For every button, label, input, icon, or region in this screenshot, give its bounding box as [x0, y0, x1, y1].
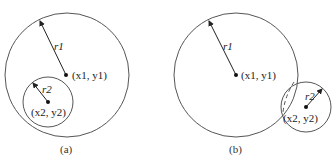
center-dot-1: [64, 73, 68, 77]
center1-label: (x1, y1): [72, 69, 107, 82]
caption-b: (b): [229, 143, 242, 156]
r2-label: r2: [305, 90, 315, 102]
center-dot-2: [304, 105, 308, 109]
r1-label: r1: [223, 40, 233, 52]
center2-label: (x2, y2): [283, 112, 318, 125]
center-dot-1: [234, 73, 238, 77]
caption-a: (a): [60, 143, 73, 156]
r1-label: r1: [54, 40, 64, 52]
center2-label: (x2, y2): [31, 106, 66, 119]
r2-label: r2: [42, 83, 52, 95]
circles-diagram: r1 (x1, y1) r2 (x2, y2) (a) r1 (x1, y1) …: [0, 0, 336, 161]
center-dot-2: [46, 100, 50, 104]
panel-a: r1 (x1, y1) r2 (x2, y2) (a): [5, 13, 129, 156]
center1-label: (x1, y1): [241, 69, 276, 82]
panel-b: r1 (x1, y1) r2 (x2, y2) (b): [174, 13, 331, 156]
